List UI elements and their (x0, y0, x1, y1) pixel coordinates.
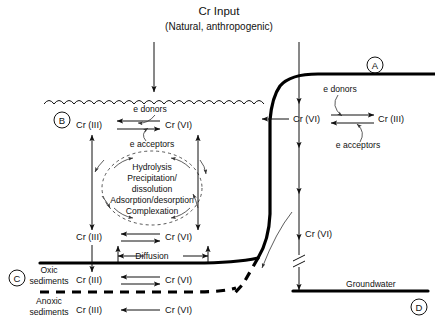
process-hydrolysis-label: Hydrolysis (132, 162, 172, 172)
water-e-acceptors-label: e acceptors (130, 139, 174, 149)
process-loop-arrow-upper-right (171, 158, 190, 168)
oxic-zone-label-line1: Oxic (40, 265, 58, 275)
settling-arrow-right (200, 160, 206, 174)
water-cr3-label: Cr (III) (76, 120, 102, 130)
process-dissolution-label: dissolution (132, 184, 173, 194)
process-adsorption-label: Adsorption/desorption (110, 195, 194, 205)
lower-water-cr3-label: Cr (III) (76, 232, 102, 242)
anoxic-zone-label-line2: sediments (29, 307, 68, 317)
oxic-zone-label-line2: sediments (29, 276, 68, 286)
break-symbol-upper (293, 255, 305, 261)
soil-cr6-label: Cr (VI) (293, 114, 320, 124)
page-title: Cr Input (199, 5, 241, 17)
water-cr6-label: Cr (VI) (165, 120, 192, 130)
oxic-cr3-label: Cr (III) (76, 275, 102, 285)
water-e-donors-label: e donors (133, 104, 166, 114)
soil-e-donors-curve (335, 95, 342, 116)
groundwater-label: Groundwater (346, 279, 396, 289)
redox-boundary-dashed-line (40, 288, 236, 292)
vadose-cr6-label: Cr (VI) (305, 229, 332, 239)
soil-cr3-label: Cr (III) (378, 114, 404, 124)
anoxic-cr6-label: Cr (VI) (165, 305, 192, 315)
key-c-label: C (14, 273, 21, 284)
anoxic-cr3-label: Cr (III) (76, 305, 102, 315)
lower-water-cr6-label: Cr (VI) (165, 232, 192, 242)
key-a-label: A (372, 60, 379, 71)
settling-arrow-left (95, 160, 104, 172)
oxic-cr6-label: Cr (VI) (165, 275, 192, 285)
key-d-label: D (416, 302, 423, 313)
land-surface-and-shore-profile (258, 74, 435, 258)
process-loop-arrow-upper-left (114, 158, 133, 168)
anoxic-zone-label-line1: Anoxic (36, 296, 62, 306)
process-precipitation-label: Precipitation/ (127, 173, 177, 183)
shore-subsurface-dashed (232, 258, 258, 296)
soil-e-acceptors-label: e acceptors (336, 140, 380, 150)
diagram-canvas: Cr Input (Natural, anthropogenic) A e do… (0, 0, 435, 331)
key-b-label: B (59, 115, 65, 126)
process-complexation-label: Complexation (126, 206, 179, 216)
water-e-donors-curve (138, 115, 155, 123)
page-subtitle: (Natural, anthropogenic) (165, 21, 273, 32)
break-symbol-lower (293, 261, 305, 267)
chromium-cycle-diagram: Cr Input (Natural, anthropogenic) A e do… (0, 0, 435, 331)
soil-e-donors-label: e donors (323, 84, 356, 94)
